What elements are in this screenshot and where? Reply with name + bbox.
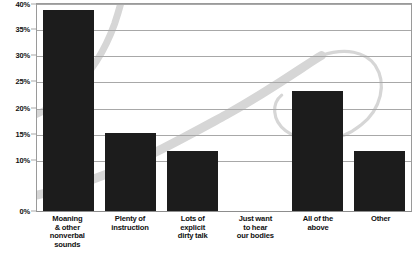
bar [292,91,343,211]
category-label-line: above [287,224,350,233]
bar [354,151,405,211]
y-tick-label-30: 30% [16,51,30,60]
bar-series [37,4,411,211]
bar-slot [349,4,411,211]
category-label: Lots ofexplicitdirty talk [161,215,224,241]
category-label: Plenty ofinstruction [99,215,162,232]
category-label-line: sounds [36,241,99,250]
y-tick-label-35: 35% [16,25,30,34]
category-label: Just wantto hearour bodies [224,215,287,241]
bar [43,10,94,211]
category-label-line: dirty talk [161,232,224,241]
y-tick-label-10: 10% [16,155,30,164]
bar-chart: 40%35%30%25%20%15%10%0% Moaning& otherno… [0,0,414,259]
y-tick-label-15: 15% [16,129,30,138]
category-label-line: instruction [99,224,162,233]
category-label: All of theabove [287,215,350,232]
bar-slot [162,4,224,211]
y-axis: 40%35%30%25%20%15%10%0% [0,0,36,215]
bar-slot [286,4,348,211]
y-tick-label-0: 0% [20,207,30,216]
x-axis: Moaning& othernonverbalsoundsPlenty ofin… [36,215,412,259]
category-label-line: our bodies [224,232,287,241]
bar-slot [99,4,161,211]
y-tick-label-25: 25% [16,77,30,86]
bar-slot [37,4,99,211]
y-tick-label-40: 40% [16,0,30,9]
category-label-line: Other [349,215,412,224]
bar-slot [224,4,286,211]
bar [105,133,156,211]
bar [167,151,218,211]
category-label: Other [349,215,412,224]
category-label: Moaning& othernonverbalsounds [36,215,99,249]
y-tick-label-20: 20% [16,103,30,112]
plot-area [36,3,412,212]
